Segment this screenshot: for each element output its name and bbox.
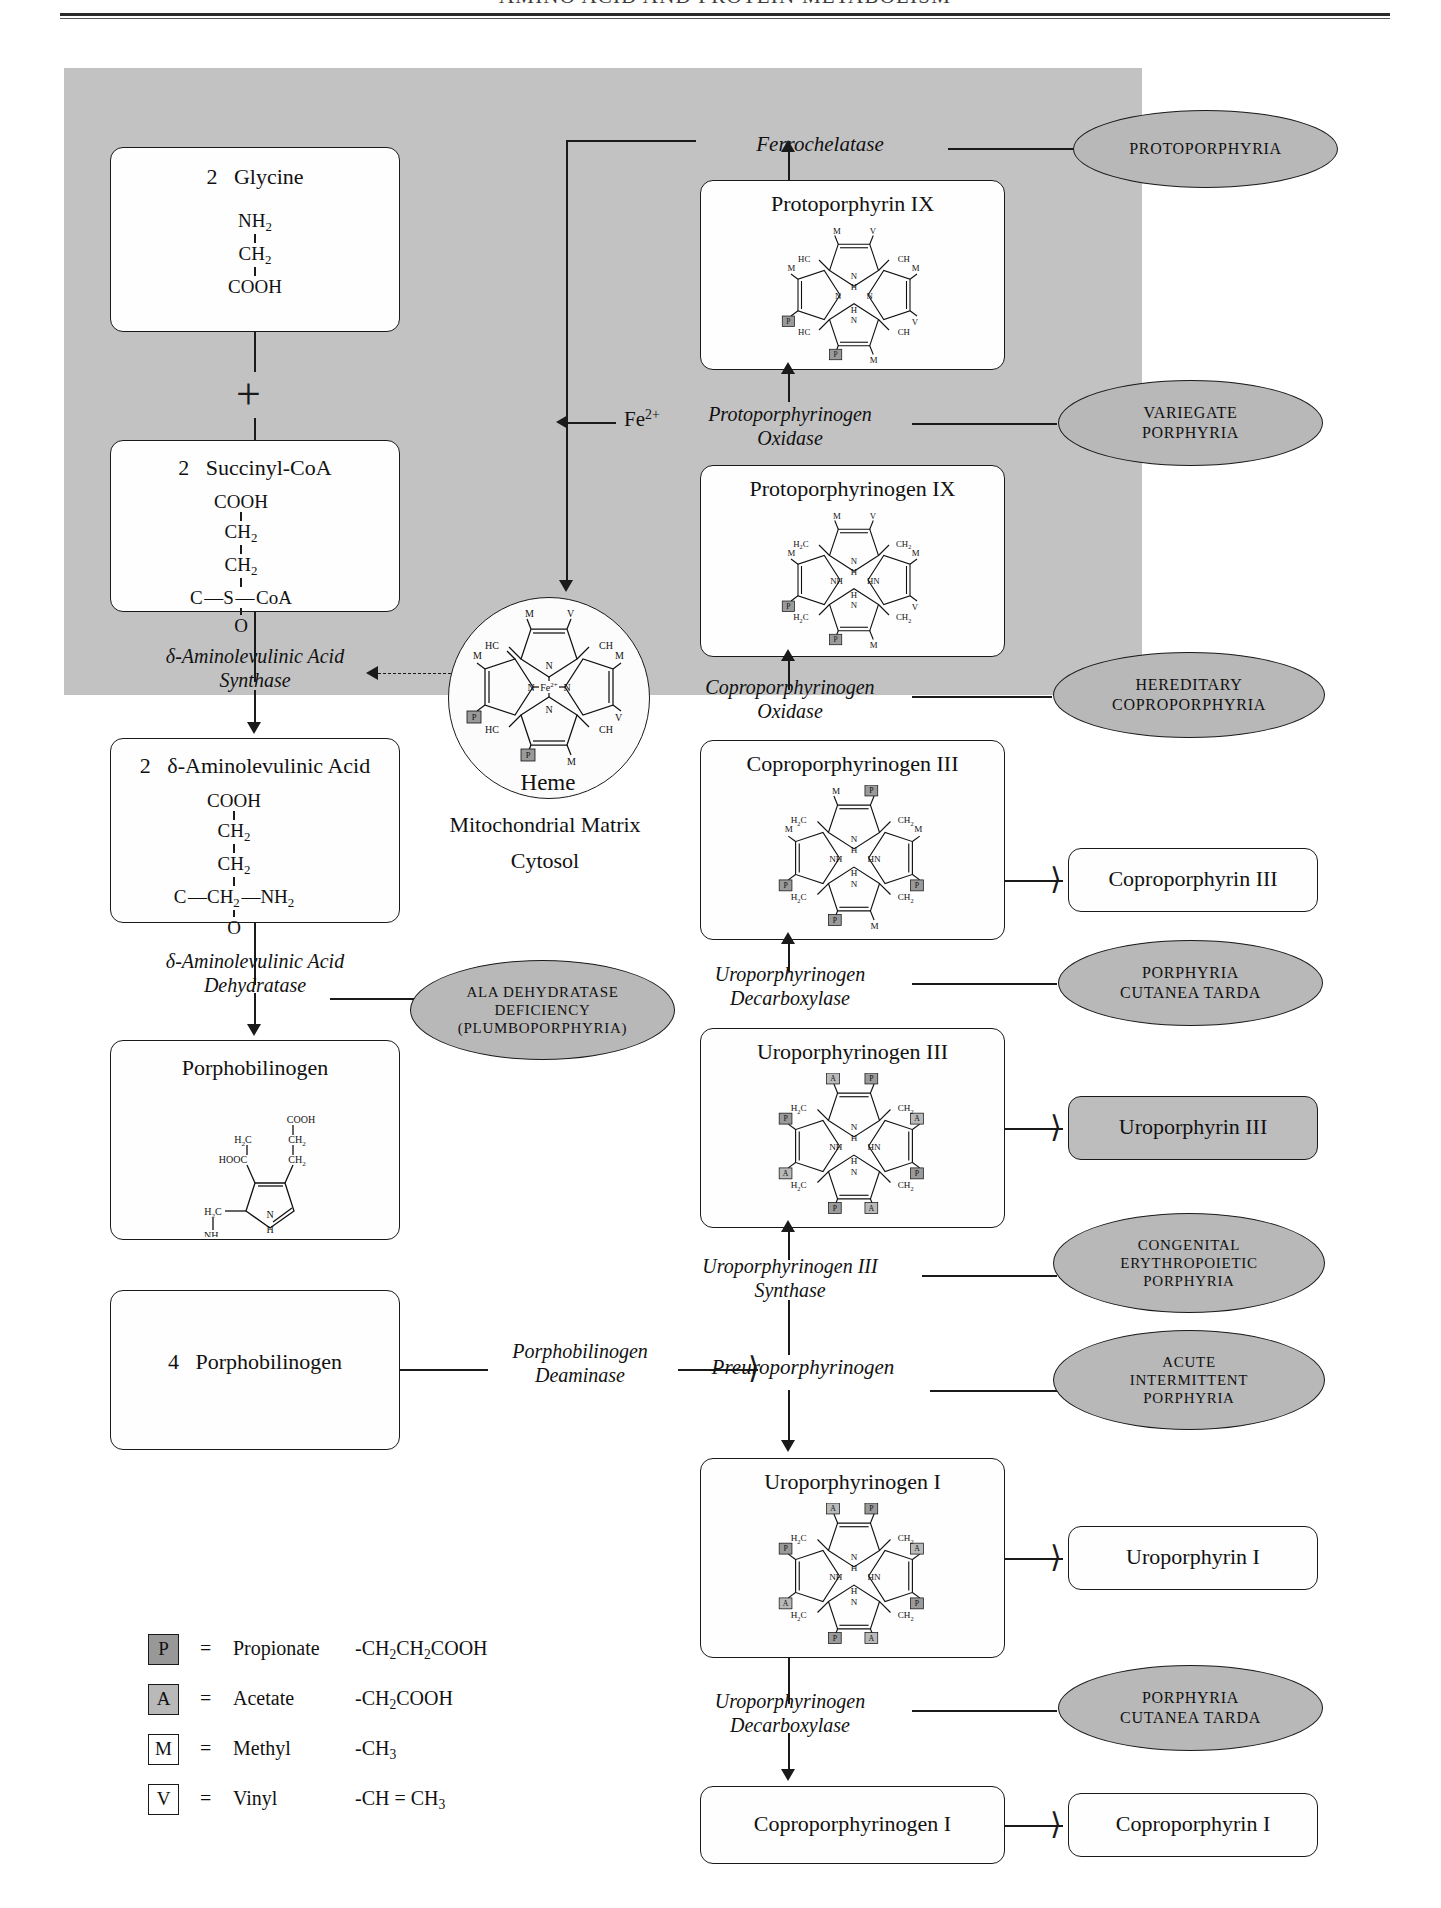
legend-formula-methyl: -CH3 xyxy=(355,1737,396,1763)
protoporphyrinogen-ix-structure: MV MM VM H2C CH2 H2C CH2 N H H N NHHN P … xyxy=(774,510,934,650)
connector-preuro-up xyxy=(788,1300,790,1355)
svg-text:NH: NH xyxy=(830,576,843,586)
legend-formula-acetate: -CH2COOH xyxy=(355,1687,453,1713)
disease-variegate-line2: PORPHYRIA xyxy=(1142,423,1239,443)
substrate-box-glycine: 2 Glycine NH2 CH2 COOH xyxy=(110,147,400,332)
link-cpo-disease xyxy=(912,696,1052,698)
svg-text:P: P xyxy=(783,881,787,890)
svg-text:P: P xyxy=(869,1074,873,1083)
svg-text:HC: HC xyxy=(485,724,499,735)
enzyme-urod1-line1: Uroporphyrinogen xyxy=(665,1690,915,1714)
svg-text:H: H xyxy=(851,1586,858,1596)
svg-text:CH2: CH2 xyxy=(896,539,911,551)
connector-fe-down-to-heme xyxy=(566,140,568,585)
svg-text:M: M xyxy=(833,511,841,521)
product-box-uroporphyrin-i: Uroporphyrin I xyxy=(1068,1526,1318,1590)
svg-text:H2C: H2C xyxy=(791,1610,807,1622)
node-preuroporphyrinogen: Preuroporphyrinogen xyxy=(678,1355,928,1380)
svg-text:N: N xyxy=(266,1209,273,1220)
coproporphyrinogen-iii-title: Coproporphyrinogen III xyxy=(701,751,1004,777)
enzyme-ferrochelatase: Ferrochelatase xyxy=(690,132,950,157)
svg-text:H2C: H2C xyxy=(793,539,808,551)
svg-text:V: V xyxy=(870,511,877,521)
arrowhead-to-porphobilinogen xyxy=(247,1024,261,1036)
arrowhead-to-protoporphyrin xyxy=(781,362,795,374)
svg-text:H2C: H2C xyxy=(791,1103,807,1115)
svg-text:V: V xyxy=(870,226,877,236)
svg-text:P: P xyxy=(472,712,477,722)
svg-text:P: P xyxy=(783,1114,787,1123)
disease-hereditary-line2: COPROPORPHYRIA xyxy=(1112,695,1266,715)
arrowhead-heme-feedback xyxy=(366,666,378,680)
svg-text:N: N xyxy=(545,704,552,715)
svg-text:N: N xyxy=(851,1597,858,1607)
intermediate-box-uroporphyrinogen-i: Uroporphyrinogen I A P P A xyxy=(700,1458,1005,1658)
disease-alad-line3: (PLUMBOPORPHYRIA) xyxy=(458,1019,627,1037)
svg-text:N: N xyxy=(851,879,858,889)
legend-formula-propionate: -CH2CH2COOH xyxy=(355,1637,488,1663)
heme-label: Heme xyxy=(448,770,648,796)
svg-text:M: M xyxy=(914,824,922,834)
disease-hereditary-line1: HEREDITARY xyxy=(1112,675,1266,695)
enzyme-ppo-line2: Oxidase xyxy=(665,427,915,451)
intermediate-box-protoporphyrin-ix: Protoporphyrin IX MV MM VM HCCH HCCH N H… xyxy=(700,180,1005,370)
substrate-box-porphobilinogen: Porphobilinogen HOOC CH2 H2C CH2 COOH xyxy=(110,1040,400,1240)
svg-text:P: P xyxy=(833,1204,837,1213)
svg-text:H2C: H2C xyxy=(793,612,808,624)
svg-text:H: H xyxy=(851,1133,858,1143)
glycine-count: 2 xyxy=(206,164,217,189)
disease-cep-line3: PORPHYRIA xyxy=(1120,1272,1257,1290)
disease-variegate-line1: VARIEGATE xyxy=(1142,403,1239,423)
svg-text:M: M xyxy=(525,608,534,619)
porphobilinogen4-count: 4 xyxy=(168,1349,179,1374)
disease-pct2-line2: CUTANEA TARDA xyxy=(1120,1708,1261,1728)
enzyme-ala-synthase: δ-Aminolevulinic Acid Synthase xyxy=(100,645,410,692)
svg-text:V: V xyxy=(615,712,623,723)
glycine-title: 2 Glycine xyxy=(111,164,399,190)
disease-hereditary-coproporphyria: HEREDITARY COPROPORPHYRIA xyxy=(1053,652,1325,738)
uroporphyrinogen-i-title: Uroporphyrinogen I xyxy=(701,1469,1004,1495)
enzyme-ala-synthase-line1: δ-Aminolevulinic Acid xyxy=(100,645,410,669)
svg-text:HC: HC xyxy=(798,254,810,264)
connector-protoporphyrin-up xyxy=(788,150,790,180)
link-urod1-disease xyxy=(912,1710,1057,1712)
svg-text:N: N xyxy=(851,1167,858,1177)
disease-porphyria-cutanea-tarda-1: PORPHYRIA CUTANEA TARDA xyxy=(1058,940,1323,1026)
svg-text:A: A xyxy=(869,1204,875,1213)
arrowhead-to-protoporphyrinogen xyxy=(781,649,795,661)
protoporphyrin-ix-title: Protoporphyrin IX xyxy=(701,191,1004,217)
svg-text:N: N xyxy=(835,291,842,301)
svg-text:N: N xyxy=(527,682,534,693)
disease-cep-line1: CONGENITAL xyxy=(1120,1236,1257,1254)
coproporphyrin-iii-label: Coproporphyrin III xyxy=(1069,866,1317,892)
legend-name-vinyl: Vinyl xyxy=(233,1787,277,1810)
svg-text:HC: HC xyxy=(485,640,499,651)
enzyme-cpo-line1: Coproporphyrinogen xyxy=(665,676,915,700)
uroporphyrinogen-iii-structure: A P P A A P P A H2C CH2 H2C CH2 NH HN NH… xyxy=(774,1073,934,1219)
svg-text:HN: HN xyxy=(867,854,881,864)
legend-name-methyl: Methyl xyxy=(233,1737,291,1760)
porphobilinogen-title: Porphobilinogen xyxy=(111,1055,399,1081)
enzyme-uroporphyrinogen-decarboxylase-i: Uroporphyrinogen Decarboxylase xyxy=(665,1690,915,1737)
svg-text:CH2: CH2 xyxy=(898,1610,914,1622)
svg-text:M: M xyxy=(870,640,878,650)
svg-text:A: A xyxy=(830,1504,836,1513)
svg-text:H: H xyxy=(851,868,858,878)
intermediate-box-protoporphyrinogen-ix: Protoporphyrinogen IX MV MM VM H2C CH2 H… xyxy=(700,465,1005,657)
svg-text:NH: NH xyxy=(829,1572,843,1582)
glycine-name: Glycine xyxy=(234,164,304,189)
enzyme-protoporphyrinogen-oxidase: Protoporphyrinogen Oxidase xyxy=(665,403,915,450)
arrowhead-fe2-input xyxy=(556,415,568,429)
svg-text:M: M xyxy=(473,650,482,661)
svg-text:N: N xyxy=(563,682,570,693)
link-ferrochelatase-disease xyxy=(948,148,1074,150)
protoporphyrinogen-ix-title: Protoporphyrinogen IX xyxy=(701,476,1004,502)
svg-text:A: A xyxy=(869,1634,875,1643)
svg-text:CH2: CH2 xyxy=(898,1533,914,1545)
product-box-coproporphyrin-i: Coproporphyrin I xyxy=(1068,1793,1318,1857)
legend-symbol-v: V xyxy=(148,1784,179,1815)
enzyme-ala-synthase-line2: Synthase xyxy=(100,669,410,693)
intermediate-box-uroporphyrinogen-iii: Uroporphyrinogen III A P P A xyxy=(700,1028,1005,1228)
svg-text:N: N xyxy=(851,834,858,844)
svg-text:P: P xyxy=(786,602,790,611)
